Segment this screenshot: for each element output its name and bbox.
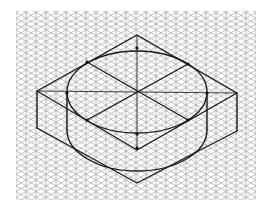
cylinder-drawing <box>37 35 237 183</box>
isometric-cylinder-diagram <box>0 0 272 221</box>
isometric-grid <box>16 0 256 221</box>
